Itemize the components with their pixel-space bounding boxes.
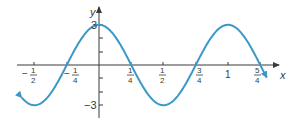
svg-text:4: 4	[73, 76, 78, 85]
x-tick-label-three-quarters: 3 4	[196, 66, 203, 85]
svg-text:4: 4	[128, 76, 133, 85]
svg-text:−: −	[64, 68, 70, 79]
x-tick-label-neg-half: − 1 2	[22, 66, 37, 85]
svg-text:1: 1	[73, 66, 78, 75]
svg-text:2: 2	[160, 76, 165, 85]
x-tick-label-one: 1	[225, 69, 231, 80]
svg-text:1: 1	[160, 66, 165, 75]
x-axis-label: x	[279, 69, 286, 81]
svg-text:1: 1	[31, 66, 36, 75]
y-axis-label: y	[89, 6, 97, 18]
x-tick-label-half: 1 2	[159, 66, 166, 85]
y-tick-label-3: 3	[91, 19, 97, 31]
cosine-graph: y x 3 −3 − 1 2 − 1 4 1 4 1 2 3 4 1 5 4	[0, 0, 289, 122]
svg-text:5: 5	[255, 66, 260, 75]
x-tick-label-five-quarters: 5 4	[254, 66, 261, 85]
svg-text:2: 2	[31, 76, 36, 85]
svg-text:4: 4	[197, 76, 202, 85]
y-tick-label-neg3: −3	[84, 99, 97, 111]
x-tick-label-neg-quarter: − 1 4	[64, 66, 79, 85]
svg-text:3: 3	[197, 66, 202, 75]
svg-text:1: 1	[128, 66, 133, 75]
svg-text:−: −	[22, 68, 28, 79]
svg-text:4: 4	[255, 76, 260, 85]
